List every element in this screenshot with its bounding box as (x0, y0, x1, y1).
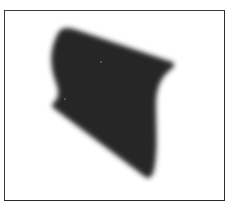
speck (100, 61, 102, 63)
dark-blob-figure (0, 0, 230, 202)
dark-shape (51, 28, 174, 178)
speck (64, 98, 66, 100)
